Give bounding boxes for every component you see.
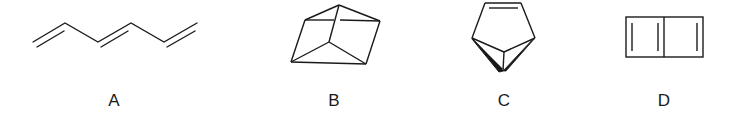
label-d: D	[658, 91, 670, 111]
structure-a	[33, 23, 197, 47]
structure-c	[472, 3, 535, 72]
structure-d	[626, 17, 703, 57]
label-b: B	[328, 91, 339, 111]
structure-b	[291, 5, 380, 64]
label-c: C	[498, 91, 510, 111]
label-a: A	[108, 91, 119, 111]
